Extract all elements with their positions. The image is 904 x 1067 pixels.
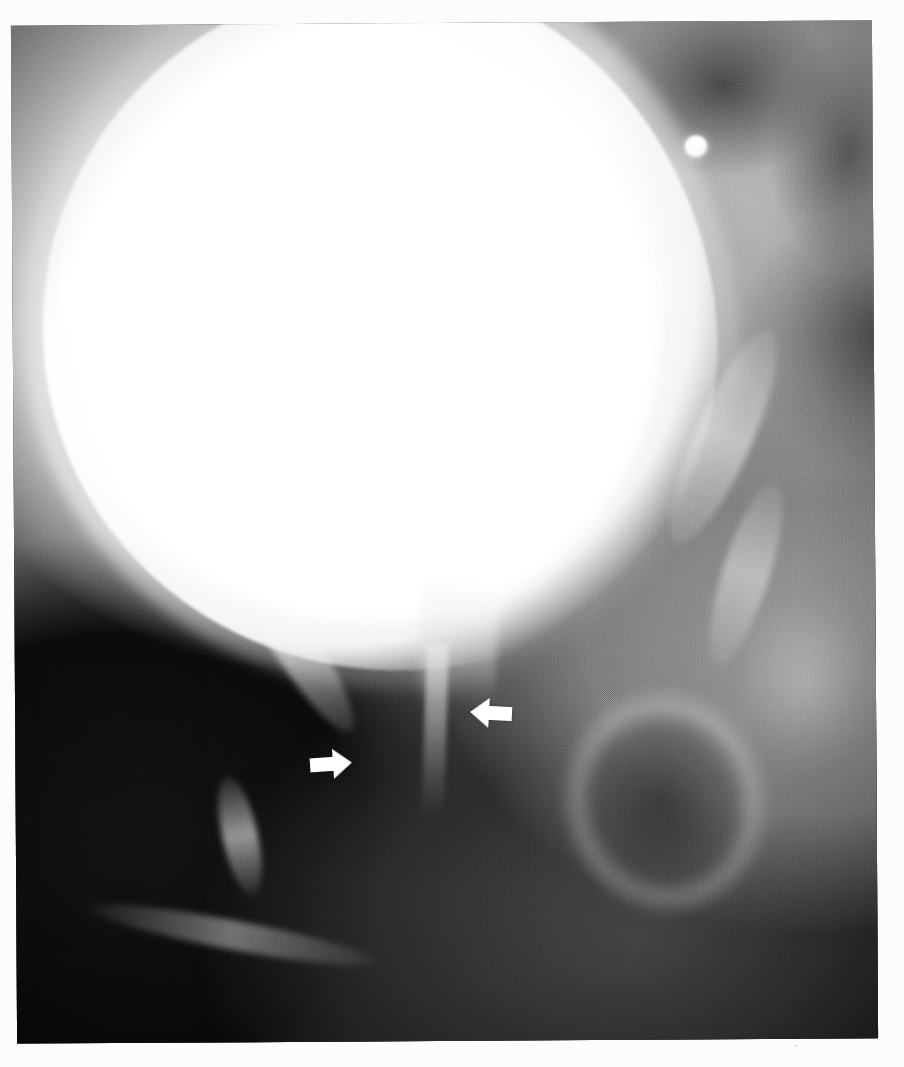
calcification-opacity [685,135,708,158]
radiograph-image [11,20,878,1043]
arrow-right-icon [307,745,355,782]
page-background [0,0,904,1067]
arrow-left-icon [467,695,515,731]
